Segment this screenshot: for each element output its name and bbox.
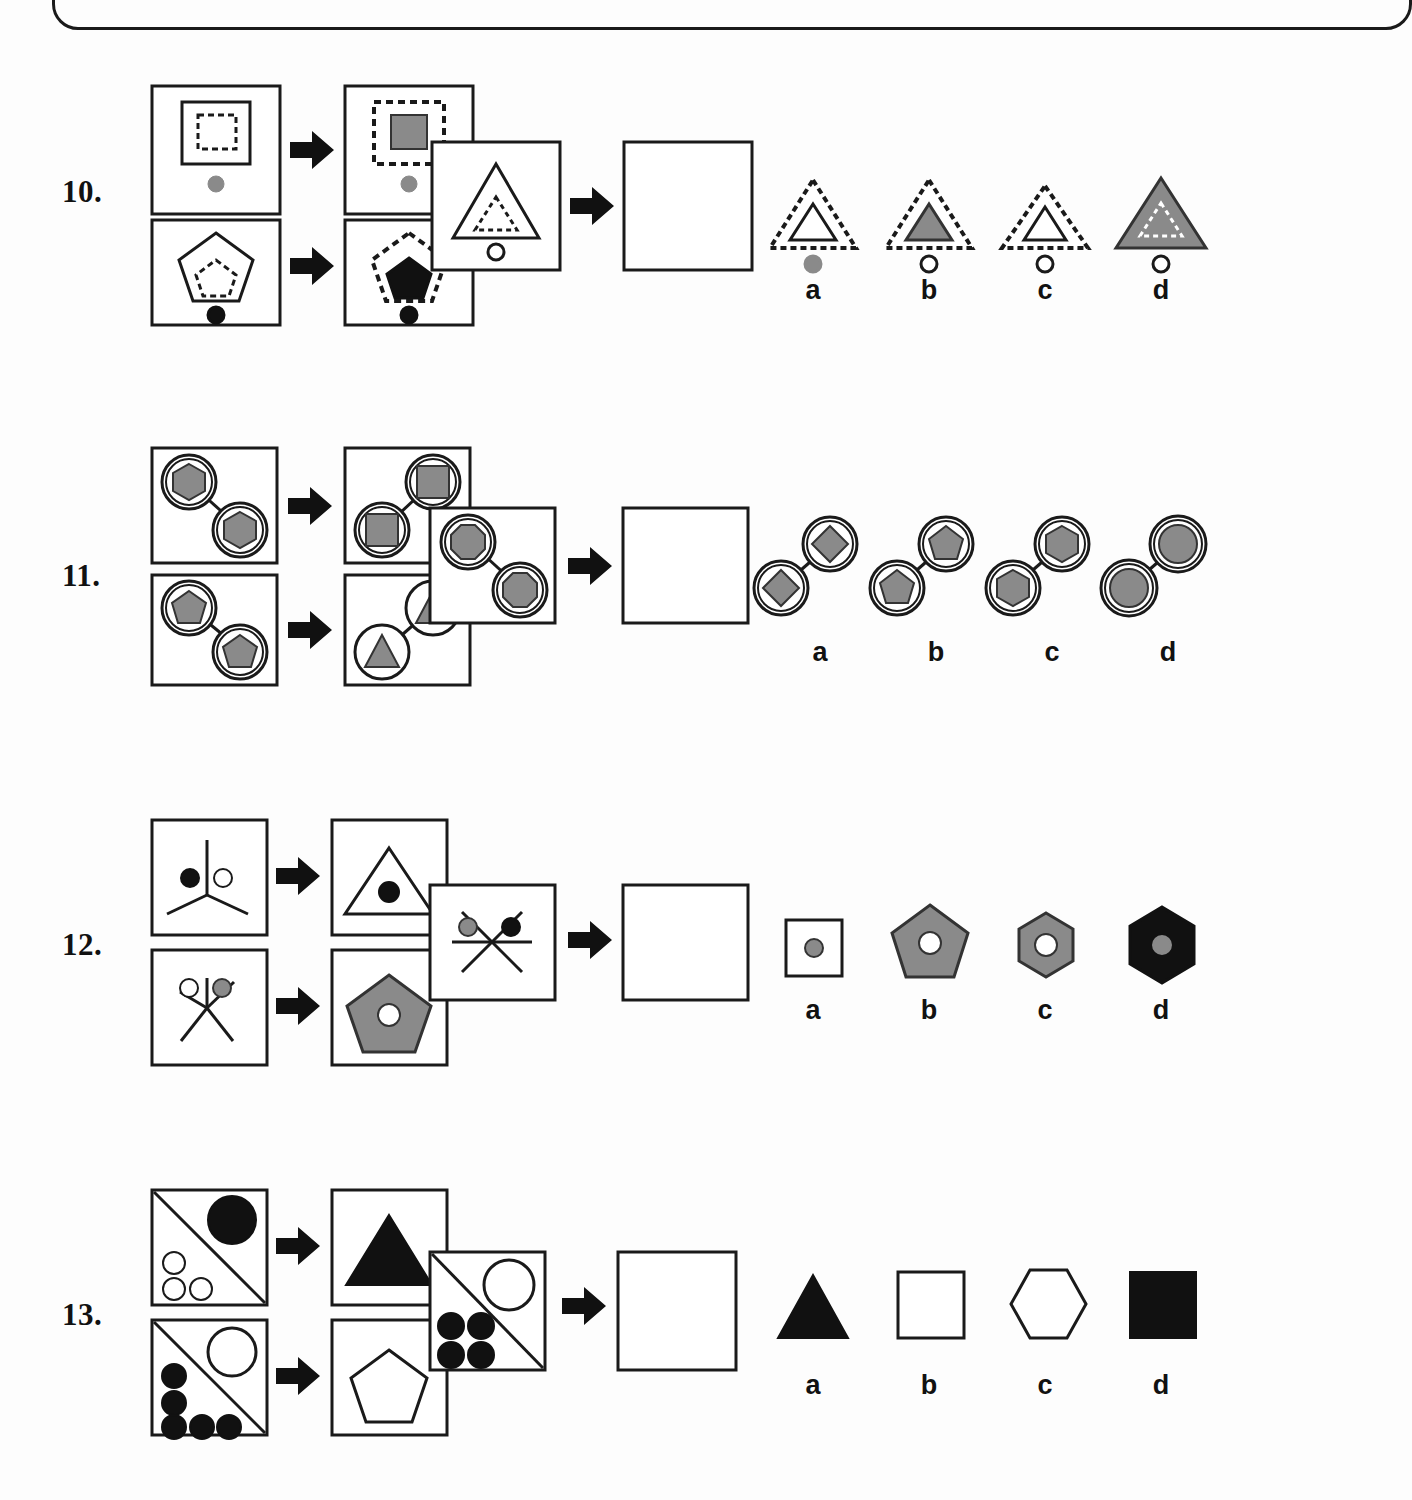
q11-example1-input-hexagon-bot — [224, 512, 256, 548]
q12-option-label-a[interactable]: a — [793, 995, 833, 1026]
q12-example2-input-dot-right — [213, 979, 231, 997]
previous-question-box — [52, 0, 1412, 30]
q10-figure-group — [140, 70, 1250, 330]
q13-option-label-d[interactable]: d — [1141, 1370, 1181, 1401]
q12-option-label-c[interactable]: c — [1025, 995, 1065, 1026]
q10-example1-output-dot — [401, 176, 417, 192]
q11-option-c-hexagon-top — [1046, 526, 1078, 562]
q11-option-label-b[interactable]: b — [916, 637, 956, 668]
question-number-13: 13. — [62, 1297, 102, 1333]
q10-option-label-a[interactable]: a — [793, 275, 833, 306]
q10-example2-arrow — [290, 247, 334, 285]
q11-option-c-hexagon-bot — [997, 570, 1029, 606]
q11-example1-output-square-top — [417, 466, 449, 498]
question-number-11: 11. — [62, 558, 101, 594]
q10-option-label-d[interactable]: d — [1141, 275, 1181, 306]
question-number-12: 12. — [62, 927, 102, 963]
q12-option-label-b[interactable]: b — [909, 995, 949, 1026]
q13-example1-input-big-circle — [208, 1196, 256, 1244]
q13-option-label-c[interactable]: c — [1025, 1370, 1065, 1401]
q12-problem-input-dot-right — [502, 918, 520, 936]
q13-example1-input-small-circle-3 — [190, 1278, 212, 1300]
q11-problem-input-octagon-bot — [503, 573, 537, 607]
q13-example1-input-small-circle-1 — [163, 1252, 185, 1274]
q10-option-b-dot — [921, 256, 937, 272]
q13-option-c-hexagon — [1011, 1270, 1086, 1338]
q10-option-label-b[interactable]: b — [909, 275, 949, 306]
q11-problem-input-octagon-top — [451, 525, 485, 559]
q10-option-c-dot — [1037, 256, 1053, 272]
q11-figure-group — [140, 440, 1250, 690]
q12-figure-group — [140, 810, 1250, 1070]
q10-example2-input-dot — [208, 307, 224, 323]
q12-option-b-center-dot — [919, 932, 941, 954]
q13-option-a-triangle — [778, 1275, 848, 1338]
q11-example2-arrow — [288, 611, 332, 649]
q10-option-label-c[interactable]: c — [1025, 275, 1065, 306]
q10-example1-input-inner-square — [198, 115, 236, 149]
q12-option-c-center-dot — [1035, 934, 1057, 956]
question-number-10: 10. — [62, 174, 102, 210]
q10-example1-input-dot — [208, 176, 224, 192]
q12-example2-arrow — [276, 987, 320, 1025]
q13-example2-input-big-circle — [208, 1328, 256, 1376]
q13-option-label-a[interactable]: a — [793, 1370, 833, 1401]
q12-example1-arrow — [276, 857, 320, 895]
q13-problem-input-small-circle-4 — [468, 1342, 494, 1368]
q12-problem-answer-panel — [623, 885, 748, 1000]
q12-problem-arrow — [568, 921, 612, 959]
q11-problem-arrow — [568, 547, 612, 585]
q13-example2-input-small-circle-1 — [162, 1364, 186, 1388]
q13-problem-input-small-circle-3 — [438, 1342, 464, 1368]
q11-problem-answer-panel — [623, 508, 748, 623]
q10-example1-output-inner-square — [391, 115, 427, 149]
q13-option-label-b[interactable]: b — [909, 1370, 949, 1401]
q12-option-a-center-dot — [805, 939, 823, 957]
q13-problem-arrow — [562, 1287, 606, 1325]
q13-problem-answer-panel — [618, 1252, 736, 1370]
q12-problem-input-dot-left — [459, 918, 477, 936]
q13-figure-group — [140, 1180, 1250, 1440]
q10-option-a-dot — [805, 256, 821, 272]
q12-option-label-d[interactable]: d — [1141, 995, 1181, 1026]
q12-example2-output-center-dot — [378, 1004, 400, 1026]
q11-option-label-d[interactable]: d — [1148, 637, 1188, 668]
q12-option-d-center-dot — [1153, 936, 1171, 954]
q10-problem-input-dot — [488, 244, 504, 260]
q11-example1-arrow — [288, 487, 332, 525]
q13-problem-input-small-circle-2 — [468, 1313, 494, 1339]
q12-example1-input-panel — [152, 820, 267, 935]
q12-example1-input-dot-right — [214, 869, 232, 887]
q13-example2-input-small-circle-2 — [162, 1391, 186, 1415]
q13-example2-input-small-circle-5 — [217, 1415, 241, 1439]
q13-example2-input-small-circle-4 — [190, 1415, 214, 1439]
q13-example1-arrow — [276, 1227, 320, 1265]
q11-option-label-a[interactable]: a — [800, 637, 840, 668]
q12-example1-output-center-dot — [379, 882, 399, 902]
q13-option-d-square — [1130, 1272, 1196, 1338]
q10-option-d-dot — [1153, 256, 1169, 272]
q11-option-d-inner-circle-top — [1159, 525, 1197, 563]
q11-option-d-inner-circle-bot — [1110, 569, 1148, 607]
q10-example2-output-dot — [401, 307, 417, 323]
q11-example1-output-square-bot — [366, 514, 398, 546]
q13-option-b-square — [898, 1272, 964, 1338]
q13-example2-arrow — [276, 1357, 320, 1395]
q10-example1-arrow — [290, 131, 334, 169]
q13-problem-input-big-circle — [484, 1260, 534, 1310]
q10-problem-answer-panel — [624, 142, 752, 270]
q12-example2-input-dot-left — [180, 979, 198, 997]
q13-example2-input-small-circle-3 — [162, 1415, 186, 1439]
q13-example1-input-small-circle-2 — [163, 1278, 185, 1300]
q11-option-label-c[interactable]: c — [1032, 637, 1072, 668]
q13-problem-input-small-circle-1 — [438, 1313, 464, 1339]
q10-problem-arrow — [570, 187, 614, 225]
q12-example1-input-dot-left — [181, 869, 199, 887]
q11-example1-input-hexagon-top — [173, 464, 205, 500]
